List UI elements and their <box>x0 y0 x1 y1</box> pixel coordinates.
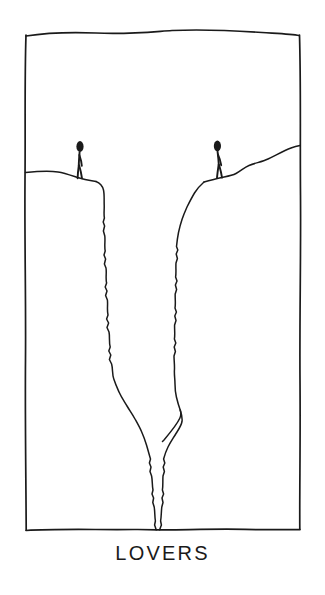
caption-label: LOVERS <box>115 540 209 566</box>
chasm-wall-left <box>96 182 156 530</box>
figure-right-head <box>214 141 221 152</box>
frame-right-edge <box>300 35 301 529</box>
figure-left-leg-front <box>79 166 82 179</box>
frame-border <box>25 30 301 531</box>
figure-right-leg-back <box>217 165 219 178</box>
frame-top-edge <box>26 30 299 36</box>
line-drawing <box>0 0 325 595</box>
figure-left-head <box>76 141 83 152</box>
figure-left-leg-back <box>78 165 79 178</box>
chasm-wall-right-lower <box>160 410 183 530</box>
figure-left <box>76 141 83 178</box>
left-plateau-edge <box>26 171 97 181</box>
frame-bottom-edge <box>26 529 300 530</box>
caption-area: LOVERS <box>0 540 325 566</box>
chasm-wall-right <box>163 182 205 442</box>
cartoon-canvas: LOVERS <box>0 0 325 595</box>
figure-right <box>214 141 222 178</box>
frame-left-edge <box>25 35 26 530</box>
figure-right-leg-front <box>219 165 222 177</box>
